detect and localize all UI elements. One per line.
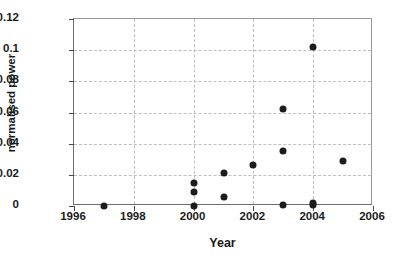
y-axis-tick-label: 0.06: [0, 106, 19, 118]
data-point: [310, 200, 317, 207]
y-axis-tick-label: 0.08: [0, 75, 19, 87]
y-axis-tick-label: 0.02: [0, 168, 19, 180]
gridline-horizontal: [74, 50, 371, 51]
x-axis-title: Year: [73, 236, 372, 250]
data-point: [250, 162, 257, 169]
data-point: [340, 157, 347, 164]
x-axis-tick-label: 2000: [163, 211, 223, 223]
data-point: [310, 44, 317, 51]
y-axis-tick: [69, 19, 74, 20]
scatter-chart: normalised power Year 00.020.040.060.080…: [0, 0, 401, 264]
x-axis-title-label: Year: [209, 236, 235, 250]
gridline-vertical: [134, 19, 135, 204]
x-axis-tick-label: 1998: [103, 211, 163, 223]
x-axis-tick-label: 2002: [222, 211, 282, 223]
y-axis-tick: [69, 81, 74, 82]
data-point: [190, 180, 197, 187]
data-point: [190, 188, 197, 195]
data-point: [280, 147, 287, 154]
data-point: [190, 203, 197, 210]
x-axis-tick-label: 2006: [342, 211, 401, 223]
plot-area: [73, 18, 372, 205]
y-axis-tick-label: 0.1: [0, 43, 19, 55]
y-axis-tick: [69, 175, 74, 176]
y-axis-tick: [69, 144, 74, 145]
gridline-horizontal: [74, 113, 371, 114]
y-axis-tick: [69, 50, 74, 51]
data-point: [280, 105, 287, 112]
data-point: [280, 202, 287, 209]
x-axis-tick-label: 1996: [43, 211, 103, 223]
gridline-vertical: [194, 19, 195, 204]
y-axis-tick-label: 0.04: [0, 137, 19, 149]
gridline-horizontal: [74, 144, 371, 145]
data-point: [220, 193, 227, 200]
x-axis-tick-label: 2004: [282, 211, 342, 223]
gridline-horizontal: [74, 81, 371, 82]
data-point: [220, 170, 227, 177]
gridline-vertical: [253, 19, 254, 204]
y-axis-tick-label: 0: [0, 199, 19, 211]
y-axis-tick-label: 0.12: [0, 12, 19, 24]
y-axis-tick: [69, 113, 74, 114]
data-point: [100, 203, 107, 210]
